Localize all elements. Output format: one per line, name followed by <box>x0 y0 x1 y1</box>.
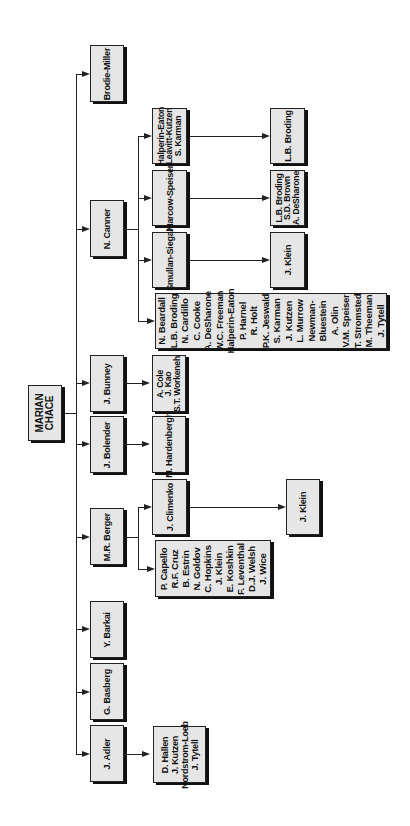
node-berger-list[interactable]: P. Capello R.F. Cruz B. Estrin N. Goldov… <box>155 540 271 597</box>
arrow-icon <box>262 133 270 139</box>
arrow-icon <box>82 71 90 77</box>
node-label: P. Capello R.F. Cruz B. Estrin N. Goldov… <box>158 543 268 595</box>
node-bolender[interactable]: J. Bolender <box>90 416 124 473</box>
node-label: N. Canner <box>103 208 112 249</box>
arrow-icon <box>82 380 90 386</box>
node-label: J. Klein <box>283 245 292 275</box>
node-adler[interactable]: J. Adler <box>90 725 124 782</box>
node-label: D. Hallen J. Kutzen Nordstrom-Loeb J. Ty… <box>160 721 200 789</box>
arrow-icon <box>144 195 152 201</box>
arrow-icon <box>82 441 90 447</box>
root-node[interactable]: MARIAN CHACE <box>28 385 62 441</box>
arrow-icon <box>82 751 90 757</box>
node-label: L.B. Broding S.D. Brown A. DeSharone <box>275 171 300 225</box>
arrow-icon <box>144 133 152 139</box>
arrow-icon <box>262 195 270 201</box>
connector <box>124 537 138 538</box>
arrow-icon <box>142 441 150 447</box>
node-label: J. Climenko <box>165 483 174 531</box>
node-klein-smullan[interactable]: J. Klein <box>270 232 305 288</box>
node-label: M.R. Berger <box>103 512 112 560</box>
node-halperin-group[interactable]: Halperin-Eaton Leavitt-Kutzen S. Karman <box>152 108 187 164</box>
arrow-icon <box>82 534 90 540</box>
arrow-icon <box>144 504 152 510</box>
node-canner-list[interactable]: N. Beardall L.B. Broding N. Cardillo C. … <box>155 293 387 349</box>
arrow-icon <box>262 257 270 263</box>
root-connector <box>62 413 76 414</box>
arrow-icon <box>147 318 155 324</box>
node-adler-list[interactable]: D. Hallen J. Kutzen Nordstrom-Loeb J. Ty… <box>153 726 206 783</box>
node-basberg[interactable]: G. Basberg <box>90 663 124 720</box>
connector <box>187 136 267 137</box>
arrow-icon <box>82 689 90 695</box>
node-bunney-list[interactable]: A. Cole J. Kao S.T. Workeneh <box>152 355 186 412</box>
node-klein-climenko[interactable]: J. Klein <box>286 479 320 535</box>
root-label: MARIAN CHACE <box>35 394 55 433</box>
node-label: N. Beardall L.B. Broding N. Cardillo C. … <box>156 289 386 354</box>
arrow-icon <box>142 380 150 386</box>
node-label: J. Adler <box>103 738 112 769</box>
node-label: A. Cole J. Kao S.T. Workeneh <box>156 356 181 412</box>
connector <box>138 136 139 321</box>
node-berger[interactable]: M.R. Berger <box>90 508 124 565</box>
arrow-icon <box>142 751 150 757</box>
node-label: M. Hardenbergh <box>165 412 174 478</box>
node-broding-brown-desharone[interactable]: L.B. Broding S.D. Brown A. DeSharone <box>270 170 305 226</box>
node-label: J. Bunney <box>103 363 112 404</box>
connector <box>187 198 267 199</box>
node-label: Y. Barkai <box>103 612 112 648</box>
arrow-icon <box>82 226 90 232</box>
node-label: Smullan-Siegal <box>165 229 174 291</box>
node-label: Marcow-Speiser <box>165 165 174 231</box>
node-hardenbergh[interactable]: M. Hardenbergh <box>152 416 186 473</box>
connector <box>187 260 267 261</box>
node-label: J. Klein <box>299 492 308 522</box>
main-trunk-line <box>76 74 77 755</box>
node-label: J. Bolender <box>103 421 112 468</box>
arrow-icon <box>278 504 286 510</box>
connector <box>187 507 283 508</box>
node-climenko[interactable]: J. Climenko <box>152 479 187 535</box>
connector <box>124 229 138 230</box>
node-label: Halperin-Eaton Leavitt-Kutzen S. Karman <box>157 107 182 165</box>
arrow-icon <box>147 566 155 572</box>
node-barkai[interactable]: Y. Barkai <box>90 601 124 658</box>
node-canner[interactable]: N. Canner <box>90 200 124 257</box>
node-bunney[interactable]: J. Bunney <box>90 355 124 412</box>
node-marcow-speiser[interactable]: Marcow-Speiser <box>152 170 187 226</box>
node-label: L.B. Broding <box>283 110 292 162</box>
connector <box>138 507 139 569</box>
arrow-icon <box>144 257 152 263</box>
node-label: Brodie-Miller <box>103 47 112 99</box>
node-brodie-miller[interactable]: Brodie-Miller <box>90 45 124 102</box>
node-label: G. Basberg <box>103 668 112 714</box>
node-smullan-siegal[interactable]: Smullan-Siegal <box>152 232 187 288</box>
arrow-icon <box>82 626 90 632</box>
node-broding[interactable]: L.B. Broding <box>270 108 305 164</box>
